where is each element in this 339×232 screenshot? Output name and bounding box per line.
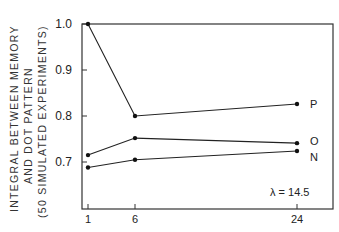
data-point (133, 158, 137, 162)
x-tick-label: 6 (132, 213, 138, 225)
series-line-p (88, 24, 297, 116)
y-tick-label: 0.8 (55, 109, 72, 123)
data-point (86, 153, 90, 157)
data-point (86, 22, 90, 26)
x-tick-label: 24 (291, 213, 303, 225)
y-tick-label: 1.0 (55, 17, 72, 31)
data-point (133, 136, 137, 140)
data-point (295, 141, 299, 145)
y-tick-label: 0.7 (55, 155, 72, 169)
y-tick-label: 0.9 (55, 63, 72, 77)
data-series: PON (86, 22, 319, 170)
line-chart: 1.00.90.80.7 1624 PON λ = 14.5 (0, 0, 339, 232)
series-label-p: P (310, 98, 317, 110)
data-point (86, 165, 90, 169)
plot-frame (82, 24, 333, 209)
data-point (133, 114, 137, 118)
data-point (295, 102, 299, 106)
lambda-annotation: λ = 14.5 (270, 186, 309, 198)
series-line-n (88, 151, 297, 168)
series-label-o: O (310, 135, 319, 147)
x-tick-label: 1 (85, 213, 91, 225)
data-point (295, 149, 299, 153)
series-label-n: N (310, 151, 318, 163)
x-axis-ticks: 1624 (85, 204, 303, 225)
